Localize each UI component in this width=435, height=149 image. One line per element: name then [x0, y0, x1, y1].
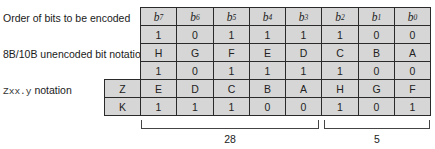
order-values-row-cell: 1	[140, 25, 177, 44]
values-repeat-row-cell: 0	[394, 61, 431, 80]
k-row-cell: 1	[213, 97, 250, 116]
k-row-cell: 0	[285, 97, 322, 116]
label-unencoded-notation: 8B/10B unencoded bit notation	[3, 48, 147, 60]
zxx-notation-text: notation	[32, 84, 72, 96]
letters-row-cell: A	[394, 43, 431, 62]
bit-subscript: 4	[269, 13, 273, 22]
values-repeat-row-cell: 1	[213, 61, 250, 80]
bracket-5-label: 5	[324, 133, 430, 145]
bracket-5	[324, 120, 430, 129]
k-row-cell: 1	[176, 97, 214, 116]
values-repeat-row-cell: 0	[176, 61, 214, 80]
label-order-of-bits: Order of bits to be encoded	[3, 12, 130, 24]
values-repeat-row-cell: 1	[140, 61, 177, 80]
order-values-row-cell: 0	[358, 25, 395, 44]
order-values-row-cell: 1	[249, 25, 286, 44]
bracket-28	[141, 120, 319, 129]
z-row-cell: H	[321, 79, 359, 98]
k-row-cell: 1	[321, 97, 359, 116]
k-row-cell: 0	[358, 97, 395, 116]
header-row-cell: b1	[358, 7, 395, 26]
bit-subscript: 6	[196, 13, 200, 22]
k-row-cell: 1	[140, 97, 177, 116]
z-row-cell: E	[140, 79, 177, 98]
header-row-cell: b7	[140, 7, 177, 26]
values-repeat-row-cell: 1	[249, 61, 286, 80]
letters-row-cell: E	[249, 43, 286, 62]
order-values-row-cell: 1	[321, 25, 359, 44]
header-row-cell: b4	[249, 7, 286, 26]
header-row-cell: b2	[321, 7, 359, 26]
bit-subscript: 5	[233, 13, 237, 22]
z-row-cell: B	[249, 79, 286, 98]
values-repeat-row-cell: 1	[285, 61, 322, 80]
letters-row-cell: C	[321, 43, 359, 62]
zxx-mono-text: Zxx.y	[3, 86, 32, 97]
letters-row-cell: F	[213, 43, 250, 62]
letters-row-cell: G	[176, 43, 214, 62]
letters-row-cell: H	[140, 43, 177, 62]
bit-subscript: 2	[341, 13, 345, 22]
z-row-cell: D	[176, 79, 214, 98]
z-row-cell: F	[394, 79, 431, 98]
order-values-row-cell: 1	[213, 25, 250, 44]
order-values-row-cell: 1	[285, 25, 322, 44]
k-row-cell: 0	[249, 97, 286, 116]
bit-subscript: 0	[414, 13, 418, 22]
order-values-row-cell: 0	[394, 25, 431, 44]
label-zxx-notation: Zxx.y notation	[3, 84, 72, 98]
letters-row-cell: D	[285, 43, 322, 62]
letters-row-cell: B	[358, 43, 395, 62]
header-row-cell: b0	[394, 7, 431, 26]
bit-subscript: 1	[378, 13, 382, 22]
values-repeat-row-cell: 1	[321, 61, 359, 80]
bit-subscript: 3	[305, 13, 309, 22]
header-row-cell: b3	[285, 7, 322, 26]
z-row-cell: G	[358, 79, 395, 98]
z-row-key-cell: Z	[104, 79, 141, 98]
header-row-cell: b5	[213, 7, 250, 26]
order-values-row-cell: 0	[176, 25, 214, 44]
k-row-cell: 1	[394, 97, 431, 116]
values-repeat-row-cell: 0	[358, 61, 395, 80]
k-row-key-cell: K	[104, 97, 141, 116]
z-row-cell: C	[213, 79, 250, 98]
header-row-cell: b6	[176, 7, 214, 26]
bracket-28-label: 28	[141, 133, 319, 145]
z-row-cell: A	[285, 79, 322, 98]
bit-subscript: 7	[160, 13, 164, 22]
